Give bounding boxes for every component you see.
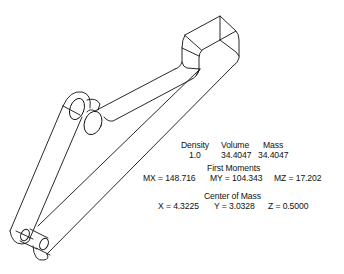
upper-pivot	[63, 92, 105, 137]
density-header: Density	[181, 141, 209, 150]
moment-mz: MZ = 17.202	[274, 174, 321, 183]
volume-header: Volume	[221, 141, 249, 150]
moment-mx: MX = 148.716	[143, 174, 196, 183]
com-z: Z = 0.5000	[268, 202, 308, 211]
density-value: 1.0	[189, 151, 201, 160]
com-x: X = 4.3225	[158, 202, 199, 211]
volume-value: 34.4047	[221, 151, 251, 160]
lower-pivot	[10, 228, 50, 260]
first-moments-title: First Moments	[207, 164, 260, 173]
long-arm	[10, 66, 233, 254]
upper-arm	[87, 69, 200, 121]
moment-my: MY = 104.343	[210, 174, 262, 183]
mass-value: 34.4047	[258, 151, 288, 160]
center-of-mass-title: Center of Mass	[204, 192, 261, 201]
lever-arm-drawing	[0, 0, 344, 274]
mass-header: Mass	[263, 141, 283, 150]
com-y: Y = 3.0328	[214, 202, 255, 211]
